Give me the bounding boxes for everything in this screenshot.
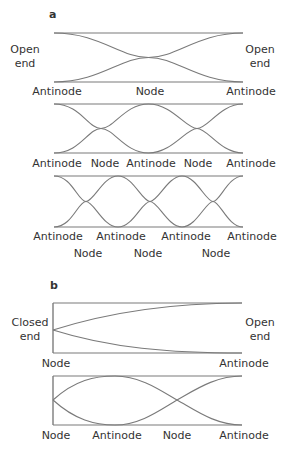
a2-label-1: Node [91, 157, 120, 170]
b2-label-0: Node [42, 429, 71, 442]
b2-label-2: Node [163, 429, 192, 442]
a3-node-1: Node [134, 247, 163, 260]
open-end-b-line1: Open [245, 316, 274, 330]
a2-label-4: Antinode [226, 157, 275, 170]
a1-label-node: Node [136, 85, 165, 98]
b1-label-antinode: Antinode [219, 357, 268, 370]
b2-label-1: Antinode [92, 429, 141, 442]
diagram-a2-wave [54, 104, 243, 153]
a3-node-2: Node [202, 247, 231, 260]
a3-antinode-3: Antinode [227, 230, 276, 243]
closed-end-line2: end [12, 330, 49, 344]
a2-label-0: Antinode [32, 157, 81, 170]
a3-antinode-2: Antinode [161, 230, 210, 243]
open-end-right-b-label: Open end [245, 316, 274, 344]
standing-wave-diagrams [0, 0, 296, 457]
diagram-a3-wave [54, 176, 243, 227]
diagram-b1-wave [53, 303, 242, 353]
b2-label-3: Antinode [219, 429, 268, 442]
a3-node-0: Node [74, 247, 103, 260]
diagram-b2-wave [53, 376, 242, 425]
a2-label-2: Antinode [126, 157, 175, 170]
a2-label-3: Node [184, 157, 213, 170]
closed-end-left-label: Closed end [12, 316, 49, 344]
a1-label-antinode-left: Antinode [32, 85, 81, 98]
panel-b-label: b [50, 279, 58, 292]
diagram-a1-wave [54, 33, 243, 82]
a3-antinode-1: Antinode [96, 230, 145, 243]
b1-label-node: Node [42, 357, 71, 370]
a3-antinode-0: Antinode [33, 230, 82, 243]
open-end-b-line2: end [245, 330, 274, 344]
closed-end-line1: Closed [12, 316, 49, 330]
a1-label-antinode-right: Antinode [226, 85, 275, 98]
